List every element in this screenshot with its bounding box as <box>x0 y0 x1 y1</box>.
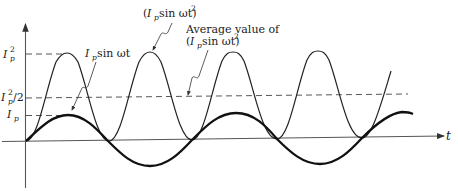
sine-squared-label: ( I p sin ωt) 2 <box>143 4 196 22</box>
sine-label-leader <box>72 62 96 110</box>
sine-curve-label: I p sin ωt <box>84 47 131 62</box>
t-axis-label: t <box>446 129 451 143</box>
svg-text:I: I <box>2 48 8 61</box>
average-label-leader <box>188 50 208 95</box>
svg-text:2: 2 <box>191 4 196 13</box>
sine-squared-waveform-diagram: t I p 2 I p 2 /2 I p I p sin ωt ( I p si… <box>0 0 458 191</box>
svg-text:p: p <box>10 54 15 63</box>
sine-squared-label-leader <box>153 23 172 50</box>
y-label-ip-squared: I p 2 <box>2 45 15 63</box>
y-label-ip-squared-half: I p 2 /2 <box>0 88 24 106</box>
y-label-ip: I p <box>6 108 19 123</box>
svg-text:I: I <box>146 7 152 20</box>
svg-text:/2: /2 <box>13 91 24 104</box>
average-value-label: Average value of ( I p sin ωt) 2 <box>185 23 280 50</box>
svg-text:I: I <box>6 108 12 121</box>
svg-text:2: 2 <box>10 45 15 54</box>
reference-line-average <box>26 94 408 98</box>
svg-text:sin ωt: sin ωt <box>97 47 131 60</box>
svg-text:I: I <box>189 35 195 48</box>
svg-text:I: I <box>84 47 90 60</box>
svg-text:2: 2 <box>234 32 239 41</box>
t-axis <box>2 136 444 142</box>
svg-text:p: p <box>14 114 19 123</box>
svg-text:I: I <box>0 91 6 104</box>
